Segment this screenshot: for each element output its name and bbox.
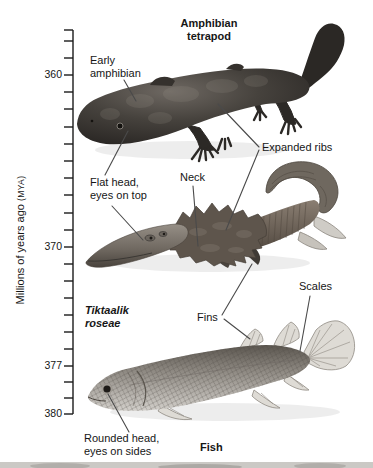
annotation-line: eyes on sides xyxy=(84,445,159,458)
amphibian-nostril xyxy=(91,120,94,123)
annotation-early-amphibian: Early amphibian xyxy=(90,54,141,79)
figure-title: Amphibian tetrapod xyxy=(149,17,269,42)
annotation-fins: Fins xyxy=(197,311,218,324)
fish-dorsal-fin-2 xyxy=(274,322,299,347)
leader-line xyxy=(112,206,143,240)
annotation-line: Early xyxy=(90,54,141,67)
annotation-rounded-head: Rounded head, eyes on sides xyxy=(84,432,159,457)
annotation-line: Flat head, xyxy=(90,176,147,189)
amphibian-eye xyxy=(117,123,123,129)
tiktaalik-rear-fin-2 xyxy=(298,232,327,249)
organism-name-line: Tiktaalik xyxy=(85,304,129,317)
figure-tetrapod-evolution: Amphibian tetrapod Millions of years ago… xyxy=(0,0,373,468)
annotation-expanded-ribs: Expanded ribs xyxy=(262,141,332,154)
axis-tick-label: 380 xyxy=(34,407,62,420)
axis-ticks xyxy=(64,30,73,414)
annotation-line: Rounded head, xyxy=(84,432,159,445)
tiktaalik-eye-left-pupil xyxy=(150,237,153,240)
organism-name-fish: Fish xyxy=(200,441,223,454)
axis-title-unit: (MYA) xyxy=(16,176,26,201)
tiktaalik-eye-right-pupil xyxy=(163,233,166,236)
axis-tick-label: 360 xyxy=(34,68,62,81)
annotation-neck: Neck xyxy=(180,171,205,184)
tiktaalik-rear-fin xyxy=(314,216,346,238)
leader-line xyxy=(224,319,250,339)
annotation-line: amphibian xyxy=(90,67,141,80)
leader-line xyxy=(300,296,310,351)
organism-name-line: roseae xyxy=(85,317,129,330)
figure-title-line2: tetrapod xyxy=(149,30,269,43)
annotation-flat-head: Flat head, eyes on top xyxy=(90,176,147,201)
timeline-axis xyxy=(64,30,73,414)
annotation-line: eyes on top xyxy=(90,189,147,202)
amphibian-shoulder-hump xyxy=(150,77,175,86)
organism-name-tiktaalik: Tiktaalik roseae xyxy=(85,304,129,329)
fish-eye xyxy=(103,385,110,392)
axis-title: Millions of years ago (MYA) xyxy=(14,176,26,305)
axis-tick-label: 370 xyxy=(34,240,62,253)
annotation-scales: Scales xyxy=(299,280,332,293)
figure-title-line1: Amphibian xyxy=(149,17,269,30)
axis-tick-label: 377 xyxy=(34,359,62,372)
axis-title-text: Millions of years ago xyxy=(14,201,26,304)
page-bottom-strip xyxy=(0,462,373,468)
fish-scale-texture xyxy=(88,345,310,411)
